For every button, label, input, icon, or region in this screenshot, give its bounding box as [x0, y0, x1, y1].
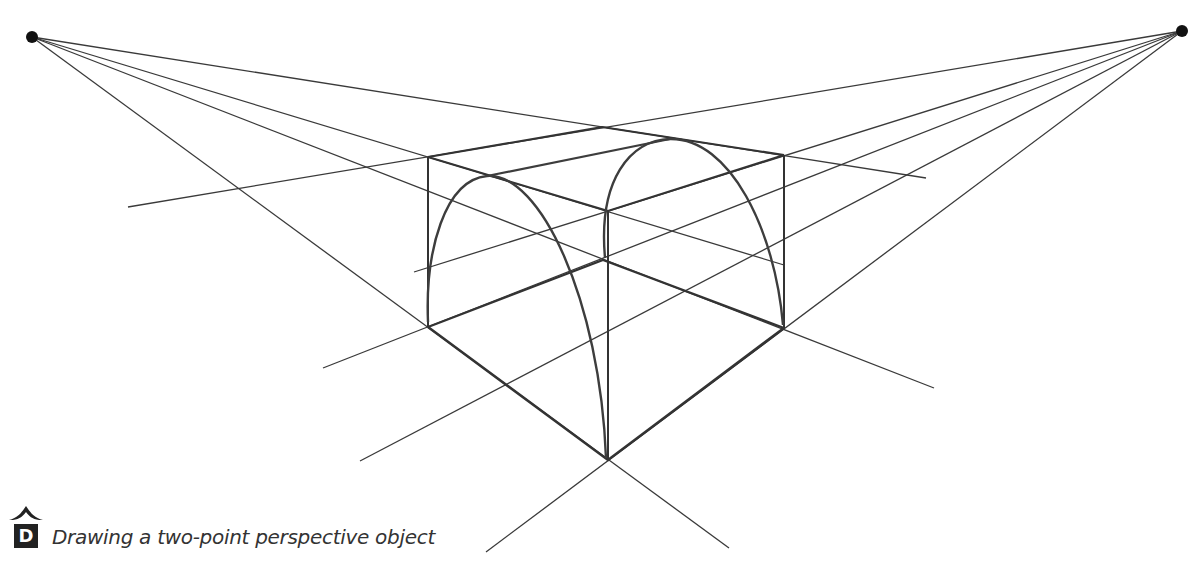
figure-caption: D Drawing a two-point perspective object	[8, 502, 435, 548]
perspective-diagram	[0, 0, 1201, 572]
right-arch	[604, 139, 783, 325]
pagoda-badge-icon: D	[8, 502, 44, 548]
right-vanishing-point	[1176, 25, 1188, 37]
left-vanishing-point	[26, 31, 38, 43]
badge-letter: D	[14, 524, 38, 548]
arches	[428, 139, 783, 458]
caption-text: Drawing a two-point perspective object	[52, 526, 435, 548]
